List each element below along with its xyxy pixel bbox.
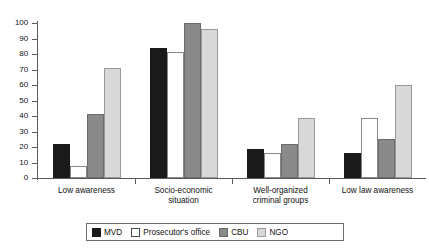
x-axis-separator xyxy=(329,179,330,184)
legend-item[interactable]: Prosecutor's office xyxy=(131,228,210,237)
bar xyxy=(201,29,218,178)
x-axis-separator xyxy=(232,179,233,184)
bar xyxy=(70,166,87,178)
bar xyxy=(53,144,70,178)
legend-item[interactable]: NGO xyxy=(257,228,288,237)
bar xyxy=(281,144,298,178)
plot-area xyxy=(38,23,426,178)
x-axis-category-label: Low awareness xyxy=(38,186,135,196)
y-axis-tick-label: 40 xyxy=(19,112,28,120)
y-axis-tick xyxy=(32,101,37,102)
bar xyxy=(344,153,361,178)
y-axis-tick-label: 90 xyxy=(19,35,28,43)
bar-group xyxy=(135,23,232,178)
bar xyxy=(361,118,378,178)
bar-chart: 0102030405060708090100 Low awarenessSoci… xyxy=(0,0,429,249)
legend-swatch-icon xyxy=(92,228,101,237)
x-axis-category-label: Socio-economicsituation xyxy=(135,186,232,206)
y-axis-tick xyxy=(32,147,37,148)
bar xyxy=(395,85,412,178)
y-axis-tick-label: 50 xyxy=(19,97,28,105)
legend-label: NGO xyxy=(269,228,288,237)
y-axis-tick xyxy=(32,39,37,40)
legend-label: CBU xyxy=(231,228,248,237)
bar xyxy=(247,149,264,178)
y-axis-tick-label: 60 xyxy=(19,81,28,89)
y-axis-tick-label: 80 xyxy=(19,50,28,58)
y-axis-tick xyxy=(32,70,37,71)
legend-swatch-icon xyxy=(131,228,140,237)
y-axis-tick-label: 100 xyxy=(15,19,28,27)
bar xyxy=(184,23,201,178)
x-axis-separator xyxy=(135,179,136,184)
legend-label: MVD xyxy=(104,228,122,237)
bar xyxy=(87,114,104,178)
legend-swatch-icon xyxy=(219,228,228,237)
y-axis-tick xyxy=(32,163,37,164)
bar xyxy=(378,139,395,178)
legend-label: Prosecutor's office xyxy=(143,228,210,237)
chart-legend: MVDProsecutor's officeCBUNGO xyxy=(86,223,344,241)
y-axis-tick xyxy=(32,116,37,117)
y-axis-tick-label: 0 xyxy=(24,174,28,182)
bar-group xyxy=(329,23,426,178)
legend-item[interactable]: CBU xyxy=(219,228,248,237)
y-axis-tick-label: 70 xyxy=(19,66,28,74)
x-axis-category-label: Well-organizedcriminal groups xyxy=(232,186,329,206)
y-axis-tick xyxy=(32,85,37,86)
x-axis-category-label: Low law awareness xyxy=(329,186,426,196)
y-axis-tick xyxy=(32,178,37,179)
bar xyxy=(298,118,315,178)
bar xyxy=(104,68,121,178)
legend-swatch-icon xyxy=(257,228,266,237)
y-axis-tick xyxy=(32,23,37,24)
bar xyxy=(150,48,167,178)
y-axis-tick-label: 30 xyxy=(19,128,28,136)
y-axis-tick-label: 10 xyxy=(19,159,28,167)
bar-group xyxy=(232,23,329,178)
bar xyxy=(264,153,281,178)
y-axis-tick xyxy=(32,132,37,133)
y-axis-tick xyxy=(32,54,37,55)
bar-group xyxy=(38,23,135,178)
y-axis-tick-label: 20 xyxy=(19,143,28,151)
legend-item[interactable]: MVD xyxy=(92,228,122,237)
bar xyxy=(167,52,184,178)
